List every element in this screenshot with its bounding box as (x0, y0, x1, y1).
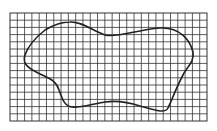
grid-diagram (0, 0, 217, 131)
grid-lines (10, 13, 207, 121)
